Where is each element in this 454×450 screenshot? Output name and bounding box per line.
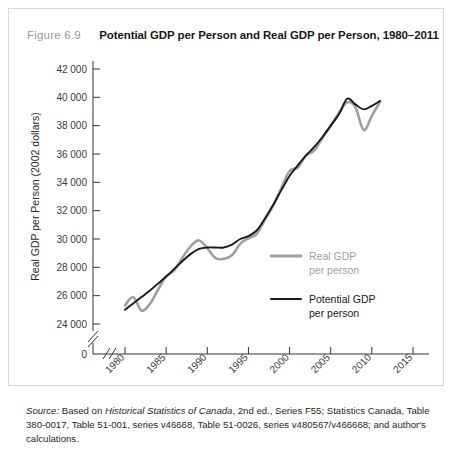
y-tick-label: 28 000 (56, 262, 87, 273)
x-tick-label: 2015 (391, 351, 415, 375)
y-tick-label: 40 000 (56, 92, 87, 103)
y-tick-label: 38 000 (56, 120, 87, 131)
x-axis-ticks: 19801985199019952000200520102015 (103, 347, 415, 375)
x-tick-label: 2010 (350, 351, 374, 375)
y-tick-label: 26 000 (56, 290, 87, 301)
y-tick-label: 34 000 (56, 177, 87, 188)
source-text-before: Based on (59, 405, 105, 416)
y-tick-label: 42 000 (56, 64, 87, 75)
y-tick-label: 30 000 (56, 234, 87, 245)
x-tick-label: 1990 (185, 351, 209, 375)
x-tick-label: 1995 (226, 351, 250, 375)
source-italic-work: Historical Statistics of Canada (105, 405, 232, 416)
legend-label-potential-gdp-line2: per person (309, 307, 359, 319)
y-tick-label: 24 000 (56, 319, 87, 330)
line-chart-svg: 24 00026 00028 00030 00032 00034 00036 0… (9, 9, 445, 387)
x-tick-label: 1980 (103, 351, 127, 375)
y-axis-title: Real GDP per Person (2002 dollars) (29, 112, 41, 280)
figure-card: Figure 6.9 Potential GDP per Person and … (8, 8, 444, 386)
y-tick-label: 36 000 (56, 149, 87, 160)
y-zero-label: 0 (81, 349, 87, 360)
chart-legend: Real GDPper personPotential GDPper perso… (271, 250, 376, 319)
series-line-potential-gdp (125, 98, 380, 309)
source-label: Source: (26, 405, 59, 416)
source-note: Source: Based on Historical Statistics o… (26, 404, 436, 446)
x-tick-label: 2005 (309, 351, 333, 375)
x-tick-label: 2000 (267, 351, 291, 375)
legend-label-real-gdp-line2: per person (309, 264, 359, 276)
legend-label-potential-gdp-line1: Potential GDP (309, 293, 376, 305)
chart-plot-area: 24 00026 00028 00030 00032 00034 00036 0… (9, 9, 445, 387)
y-tick-label: 32 000 (56, 205, 87, 216)
legend-label-real-gdp-line1: Real GDP (309, 250, 356, 262)
x-tick-label: 1985 (144, 351, 168, 375)
chart-series-group (125, 98, 380, 310)
